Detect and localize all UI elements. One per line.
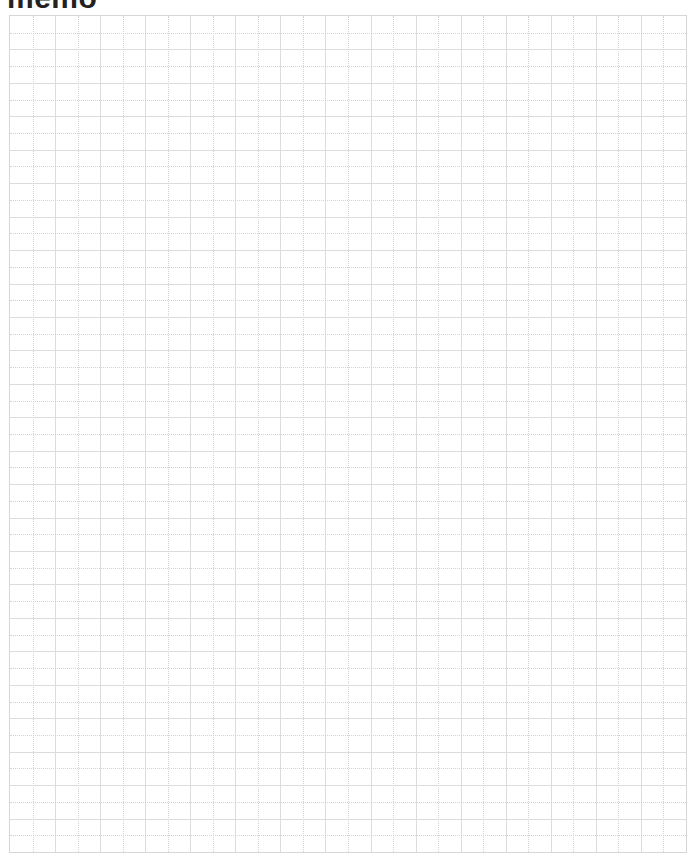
- grid-row-line: [10, 384, 686, 385]
- grid-row-line: [10, 250, 686, 251]
- grid-row-line: [10, 835, 686, 836]
- grid-row-line: [10, 651, 686, 652]
- page-title: memo: [7, 0, 97, 13]
- grid-row-line: [10, 49, 686, 50]
- grid-row-line: [10, 702, 686, 703]
- grid-row-line: [10, 133, 686, 134]
- grid-row-line: [10, 685, 686, 686]
- grid-row-line: [10, 334, 686, 335]
- grid-row-line: [10, 284, 686, 285]
- grid-row-line: [10, 267, 686, 268]
- grid-row-line: [10, 451, 686, 452]
- grid-row-line: [10, 233, 686, 234]
- grid-row-line: [10, 534, 686, 535]
- grid-row-line: [10, 752, 686, 753]
- grid-row-line: [10, 350, 686, 351]
- grid-row-line: [10, 768, 686, 769]
- grid-row-line: [10, 551, 686, 552]
- grid-row-line: [10, 668, 686, 669]
- grid-row-line: [10, 802, 686, 803]
- grid-row-line: [10, 401, 686, 402]
- grid-row-line: [10, 584, 686, 585]
- grid-row-line: [10, 100, 686, 101]
- grid-row-line: [10, 116, 686, 117]
- grid-row-line: [10, 217, 686, 218]
- grid-row-line: [10, 367, 686, 368]
- grid-row-line: [10, 66, 686, 67]
- grid-row-line: [10, 33, 686, 34]
- grid-row-line: [10, 518, 686, 519]
- memo-grid: [9, 15, 687, 853]
- grid-row-line: [10, 568, 686, 569]
- grid-row-line: [10, 434, 686, 435]
- grid-row-line: [10, 501, 686, 502]
- grid-row-line: [10, 150, 686, 151]
- grid-row-line: [10, 601, 686, 602]
- grid-row-line: [10, 785, 686, 786]
- grid-row-line: [10, 83, 686, 84]
- grid-row-line: [10, 735, 686, 736]
- grid-row-line: [10, 635, 686, 636]
- grid-row-line: [10, 417, 686, 418]
- grid-row-line: [10, 467, 686, 468]
- grid-row-line: [10, 819, 686, 820]
- grid-row-line: [10, 484, 686, 485]
- grid-row-line: [10, 183, 686, 184]
- grid-row-line: [10, 317, 686, 318]
- grid-row-line: [10, 300, 686, 301]
- grid-row-line: [10, 166, 686, 167]
- grid-row-line: [10, 200, 686, 201]
- grid-row-line: [10, 618, 686, 619]
- grid-row-line: [10, 718, 686, 719]
